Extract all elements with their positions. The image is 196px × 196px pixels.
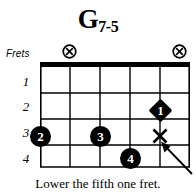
caption-text: Lower the fifth one fret. <box>0 176 196 192</box>
chord-diagram-card: G7-5 Frets 1 2 3 4 <box>0 0 196 196</box>
finger-marker-1: 1 <box>150 100 171 121</box>
frets-label: Frets <box>6 48 30 59</box>
chord-suffix: 7-5 <box>98 18 118 35</box>
finger-number: 3 <box>90 126 111 147</box>
page-title: G7-5 <box>0 6 196 33</box>
fret-number-2: 2 <box>18 99 34 115</box>
chord-root: G <box>78 4 99 34</box>
fret-number-4: 4 <box>18 151 34 167</box>
circled-x-icon-string-6 <box>172 44 187 59</box>
circled-x-icon-string-2 <box>62 44 77 59</box>
arrow-up-left-icon <box>156 138 196 180</box>
finger-marker-2: 2 <box>30 126 51 147</box>
finger-number: 4 <box>120 148 141 169</box>
finger-marker-4: 4 <box>120 148 141 169</box>
fret-number-1: 1 <box>18 74 34 90</box>
finger-number: 1 <box>150 100 171 121</box>
finger-marker-3: 3 <box>90 126 111 147</box>
finger-number: 2 <box>30 126 51 147</box>
